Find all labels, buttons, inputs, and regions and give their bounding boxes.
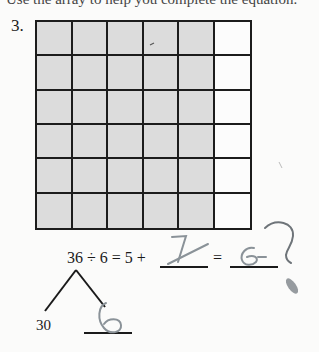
drawing-overlay [0,0,319,352]
question-mark-annotation [265,222,293,263]
stray-mark [150,43,154,45]
handwritten-answer-2 [242,248,266,265]
stray-mark [279,162,282,168]
number-bond-lines [45,270,105,311]
pencil-smudge [284,276,301,295]
handwritten-answer-1 [168,236,208,264]
handwritten-bond-answer [99,303,121,332]
